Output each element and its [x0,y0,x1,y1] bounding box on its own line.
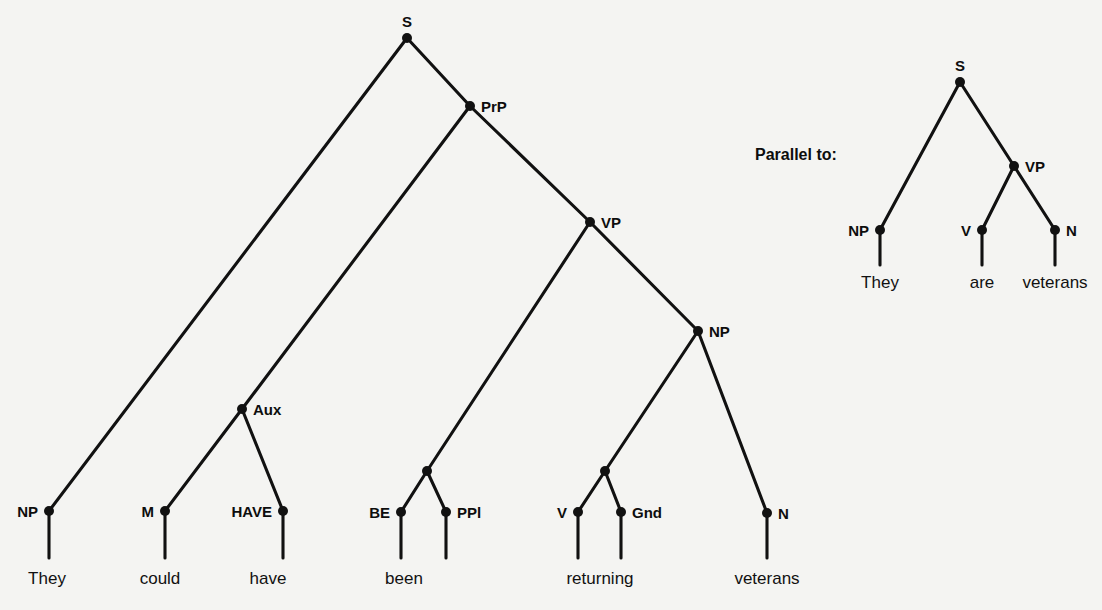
tree-branch [578,471,605,512]
tree-branch [242,106,470,409]
node-label-be: BE [369,505,390,520]
node-label-np: NP [848,223,869,238]
tree-node-dot [585,217,595,227]
tree-branch [407,38,470,106]
terminal-word: could [140,570,181,587]
terminal-word: returning [566,570,633,587]
tree-node-dot [160,506,170,516]
tree-node-dot [237,404,247,414]
node-label-np: NP [709,324,730,339]
node-label-have: HAVE [231,504,272,519]
node-label-ppl: PPl [457,505,481,520]
tree-branch [49,38,407,511]
tree-branch [427,471,446,512]
tree-node-dot [762,508,772,518]
tree-node-dot [278,506,288,516]
tree-node-dot [573,507,583,517]
tree-node-dot [396,507,406,517]
node-label-vp: VP [601,215,621,230]
tree-branch [470,106,590,222]
terminal-word: are [970,274,995,291]
tree-node-dot [600,466,610,476]
tree-node-dot [1009,161,1019,171]
node-label-aux: Aux [253,402,281,417]
terminal-word: have [250,570,287,587]
tree-branch [165,409,242,511]
node-label-np: NP [17,504,38,519]
node-label-v: V [557,505,567,520]
node-label-n: N [778,506,789,521]
tree-node-dot [44,506,54,516]
node-label-s: S [955,58,965,73]
diagram-canvas: SPrPVPNPAuxNPMHAVEBEPPlVGndNSVPNPVN They… [0,0,1102,610]
tree-branch [242,409,283,511]
tree-branch [590,222,698,331]
tree-edges-layer [49,38,1055,513]
terminal-word: They [28,570,66,587]
terminal-word: veterans [1022,274,1087,291]
tree-branch [605,331,698,471]
tree-branch [427,222,590,471]
tree-node-dot [875,225,885,235]
tree-branch [880,82,960,230]
tree-branch [698,331,767,513]
node-label-s: S [402,14,412,29]
tree-branch [1014,166,1055,230]
node-label-m: M [142,504,155,519]
tree-node-dot [1050,225,1060,235]
tree-node-dot [402,33,412,43]
terminal-word: veterans [734,570,799,587]
parallel-to-caption: Parallel to: [755,147,837,163]
tree-node-dot [422,466,432,476]
tree-branch [605,471,621,512]
node-label-v: V [961,223,971,238]
tree-branch [401,471,427,512]
tree-branch [960,82,1014,166]
tree-node-dots-layer [44,33,1060,518]
terminal-word: They [861,274,899,291]
tree-node-dot [977,225,987,235]
tree-node-dot [616,507,626,517]
tree-node-dot [955,77,965,87]
tree-branch [982,166,1014,230]
tree-node-dot [465,101,475,111]
node-label-prp: PrP [481,99,507,114]
tree-node-dot [441,507,451,517]
tree-node-dot [693,326,703,336]
terminal-word: been [385,570,423,587]
node-label-vp: VP [1025,159,1045,174]
node-label-n: N [1066,223,1077,238]
syntax-tree-lines [0,0,1102,610]
node-label-gnd: Gnd [632,505,662,520]
